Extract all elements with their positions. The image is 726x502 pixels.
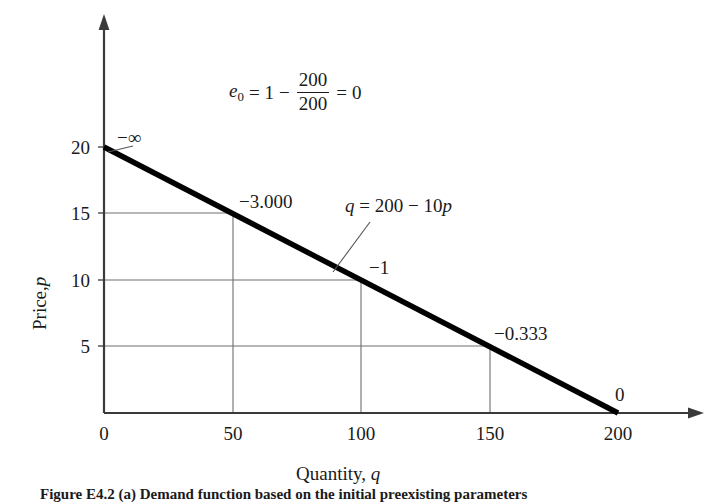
formula-minus: − xyxy=(279,83,290,102)
curve-equation-slope: 10 xyxy=(423,195,442,216)
x-axis-arrowhead xyxy=(688,408,704,419)
formula-result: 0 xyxy=(352,83,362,102)
equation-leader-line xyxy=(333,222,370,272)
formula-denominator: 200 xyxy=(297,93,330,115)
curve-equation-equals: = xyxy=(359,195,370,216)
x-axis-title-main: Quantity, xyxy=(296,463,366,484)
formula-equals-1: = xyxy=(249,83,260,102)
curve-equation-intercept: 200 xyxy=(375,195,404,216)
figure-caption: Figure E4.2 (a) Demand function based on… xyxy=(40,484,700,502)
y-axis-title-main: Price, xyxy=(29,286,50,330)
xtick-label-0: 0 xyxy=(84,424,124,443)
y-axis-title: Price,p xyxy=(30,277,49,330)
ytick-label-20: 20 xyxy=(38,138,90,157)
y-axis-arrowhead xyxy=(99,14,110,30)
elasticity-label-at-q50: −3.000 xyxy=(239,192,292,211)
elasticity-label-at-q200: 0 xyxy=(615,385,625,404)
elasticity-formula: e0 = 1 − 200 200 = 0 xyxy=(229,70,362,115)
xtick-label-50: 50 xyxy=(213,424,253,443)
curve-equation-label: q = 200 − 10p xyxy=(345,196,452,215)
xtick-label-200: 200 xyxy=(598,424,638,443)
elasticity-label-at-q150: −0.333 xyxy=(494,324,547,343)
curve-equation-minus: − xyxy=(408,195,419,216)
curve-equation-variable: p xyxy=(442,195,452,216)
formula-one: 1 xyxy=(265,83,275,102)
x-axis-title: Quantity, q xyxy=(296,464,380,483)
formula-numerator: 200 xyxy=(297,70,330,92)
curve-equation-lhs: q xyxy=(345,195,355,216)
formula-symbol-letter: e xyxy=(229,80,237,101)
x-axis-title-variable: q xyxy=(371,463,381,484)
ytick-label-5: 5 xyxy=(38,337,90,356)
y-axis-title-variable: p xyxy=(29,277,50,287)
formula-fraction: 200 200 xyxy=(297,70,330,115)
ytick-label-15: 15 xyxy=(38,204,90,223)
formula-equals-2: = xyxy=(336,83,347,102)
elasticity-label-at-q100: −1 xyxy=(369,258,389,277)
formula-symbol-subscript: 0 xyxy=(237,91,243,104)
xtick-label-150: 150 xyxy=(470,424,510,443)
xtick-label-100: 100 xyxy=(341,424,381,443)
droplines-group xyxy=(104,213,490,413)
elasticity-label-at-q0: −∞ xyxy=(117,128,141,147)
formula-symbol: e0 xyxy=(229,81,244,104)
figure-caption-text: Figure E4.2 (a) Demand function based on… xyxy=(40,486,527,502)
demand-curve-figure: e0 = 1 − 200 200 = 0 20 15 10 5 0 50 100… xyxy=(0,0,726,502)
